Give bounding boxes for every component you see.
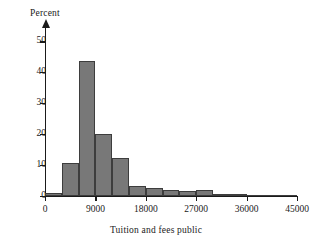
x-tick-mark bbox=[45, 196, 46, 201]
histogram-bar bbox=[95, 134, 112, 196]
histogram-bar bbox=[79, 61, 96, 196]
histogram-bar bbox=[179, 191, 196, 196]
x-tick-label: 18000 bbox=[124, 204, 168, 214]
histogram-bar bbox=[263, 195, 280, 196]
x-tick-label: 36000 bbox=[225, 204, 269, 214]
histogram-figure: Percent 01020304050 09000180002700036000… bbox=[0, 0, 312, 248]
histogram-bar bbox=[163, 190, 180, 196]
x-tick-label: 45000 bbox=[275, 204, 312, 214]
y-tick-label: 50 bbox=[20, 36, 46, 46]
x-axis-label: Tuition and fees public bbox=[0, 225, 312, 235]
histogram-bar bbox=[129, 186, 146, 196]
y-tick-label: 10 bbox=[20, 160, 46, 170]
histogram-bar bbox=[146, 188, 163, 196]
histogram-bar bbox=[280, 195, 297, 196]
x-tick-mark bbox=[196, 196, 197, 201]
histogram-bar bbox=[112, 158, 129, 196]
x-tick-mark bbox=[297, 196, 298, 201]
x-tick-label: 27000 bbox=[174, 204, 218, 214]
histogram-bar bbox=[45, 193, 62, 196]
x-tick-label: 0 bbox=[23, 204, 67, 214]
histogram-bar bbox=[230, 194, 247, 196]
histogram-bar bbox=[213, 194, 230, 196]
histogram-bar bbox=[62, 163, 79, 196]
y-tick-label: 40 bbox=[20, 67, 46, 77]
histogram-bars bbox=[45, 26, 297, 196]
y-tick-label: 20 bbox=[20, 129, 46, 139]
x-tick-mark bbox=[95, 196, 96, 201]
histogram-bar bbox=[196, 190, 213, 196]
y-tick-label: 30 bbox=[20, 98, 46, 108]
x-tick-mark bbox=[146, 196, 147, 201]
x-tick-mark bbox=[247, 196, 248, 201]
y-axis-label: Percent bbox=[30, 8, 60, 18]
histogram-bar bbox=[247, 195, 264, 196]
x-tick-label: 9000 bbox=[73, 204, 117, 214]
y-tick-label: 0 bbox=[20, 191, 46, 201]
